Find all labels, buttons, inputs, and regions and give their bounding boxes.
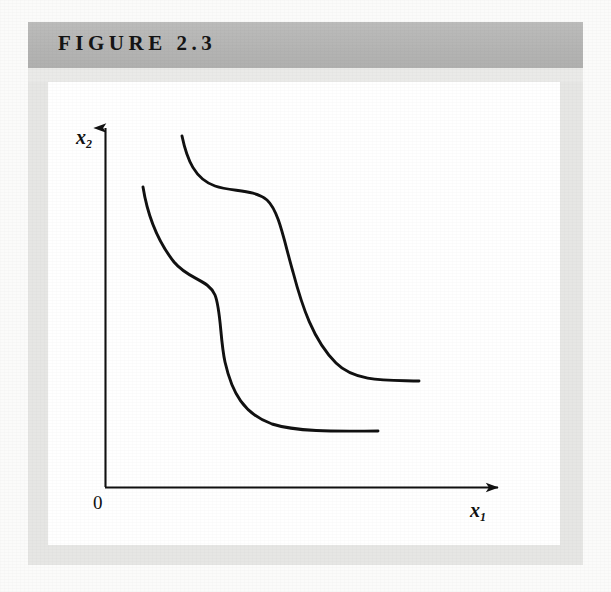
origin-label: 0 (93, 492, 103, 514)
indifference-curve-plot (48, 82, 560, 545)
y-axis-label: x2 (76, 126, 92, 149)
header-under-strip (28, 68, 583, 82)
x-axis-label-base: x (470, 499, 480, 521)
figure-header-band: FIGURE 2.3 (28, 22, 583, 68)
lower-indifference-curve (143, 187, 378, 431)
upper-indifference-curve (182, 136, 419, 381)
y-axis-label-subscript: 2 (86, 137, 92, 151)
figure-title: FIGURE 2.3 (58, 31, 216, 56)
x-axis-label-subscript: 1 (480, 510, 486, 524)
x-axis-label: x1 (470, 499, 486, 522)
y-axis-label-base: x (76, 126, 86, 148)
plot-panel: x2 x1 0 (48, 82, 560, 545)
